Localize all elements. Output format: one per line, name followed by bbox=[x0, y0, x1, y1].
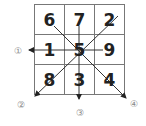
magic-square-diagram: 6 7 2 1 5 9 8 3 4 ① ② ③ ④ bbox=[0, 0, 146, 126]
cell-2-0: 8 bbox=[44, 70, 56, 90]
cell-2-2: 4 bbox=[104, 70, 116, 90]
arrow-label-1: ① bbox=[14, 46, 22, 56]
cell-1-0: 1 bbox=[44, 40, 56, 60]
cell-1-1: 5 bbox=[74, 40, 86, 60]
cell-1-2: 9 bbox=[104, 40, 116, 60]
grid-numbers: 6 7 2 1 5 9 8 3 4 bbox=[44, 10, 116, 90]
cell-0-2: 2 bbox=[104, 10, 116, 30]
arrow-label-2: ② bbox=[17, 100, 25, 110]
arrow-label-4: ④ bbox=[130, 99, 138, 109]
arrow-label-3: ③ bbox=[76, 108, 84, 118]
cell-0-0: 6 bbox=[44, 10, 56, 30]
cell-2-1: 3 bbox=[74, 70, 86, 90]
cell-0-1: 7 bbox=[74, 10, 86, 30]
